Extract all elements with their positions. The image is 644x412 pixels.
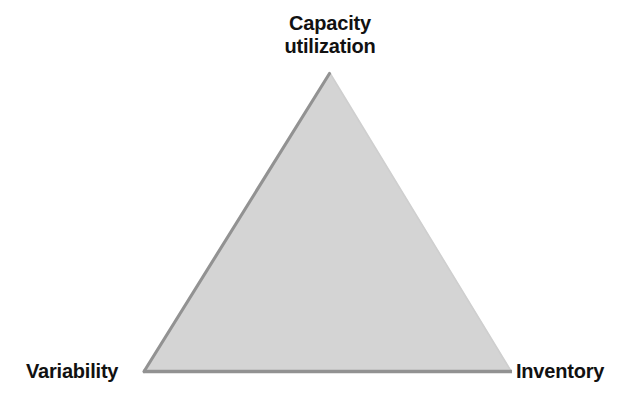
vertex-label-inventory: Inventory	[516, 360, 634, 383]
triangle-fill	[143, 73, 512, 372]
triangle-figure	[0, 0, 644, 412]
diagram-canvas: Capacity utilization Variability Invento…	[0, 0, 644, 412]
vertex-label-variability: Variability	[26, 360, 144, 383]
vertex-label-capacity-utilization: Capacity utilization	[232, 12, 428, 58]
